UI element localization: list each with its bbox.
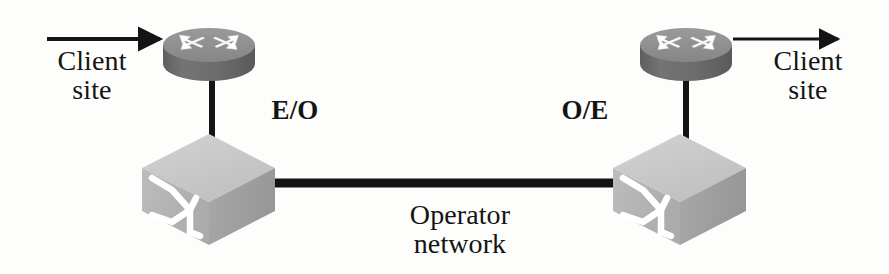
- network-diagram: Client site Client site E/O O/E Operator…: [0, 0, 889, 274]
- router-cylinder-icon-left: [163, 28, 255, 81]
- switch-cube-icon-left: [142, 134, 275, 245]
- oe-converter-label: O/E: [530, 96, 640, 124]
- client-site-right-label: Client site: [738, 46, 878, 104]
- switch-crossconnect-stubs: [190, 232, 200, 236]
- client-site-left-label: Client site: [22, 46, 162, 104]
- eo-converter-label: E/O: [240, 96, 350, 124]
- switch-crossconnect-stubs: [661, 232, 671, 236]
- router-cylinder-icon-right: [640, 28, 732, 81]
- operator-network-label: Operator network: [370, 200, 550, 258]
- switch-cube-icon-right: [613, 134, 746, 245]
